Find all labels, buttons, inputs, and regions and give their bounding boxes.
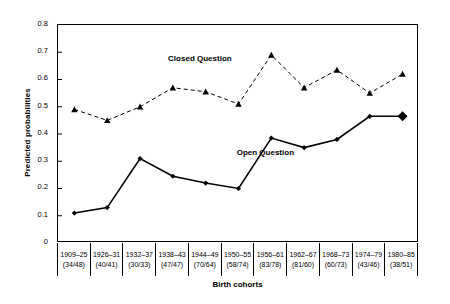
cohort-range: 1950–55 bbox=[224, 250, 251, 260]
y-tick-label: 0.2 bbox=[22, 183, 48, 191]
x-axis-category-cell: 1968–73(60/73) bbox=[320, 243, 353, 276]
cohort-range: 1932–37 bbox=[126, 250, 153, 260]
x-axis-category-cell: 1932–37(30/33) bbox=[123, 243, 156, 276]
cohort-counts: (34/48) bbox=[63, 260, 85, 270]
cohort-range: 1980–85 bbox=[388, 250, 415, 260]
y-tick-label: 0.6 bbox=[22, 74, 48, 82]
cohort-counts: (70/64) bbox=[194, 260, 216, 270]
y-tick-label: 0.4 bbox=[22, 129, 48, 137]
cohort-range: 1926–31 bbox=[93, 250, 120, 260]
x-axis-category-cell: 1944–49(70/64) bbox=[189, 243, 222, 276]
x-axis-category-cell: 1962–67(81/60) bbox=[287, 243, 320, 276]
cohort-counts: (47/47) bbox=[161, 260, 183, 270]
x-axis-category-cell: 1909–25(34/48) bbox=[58, 243, 91, 276]
open-question-markers bbox=[72, 111, 408, 215]
y-tick-label: 0.5 bbox=[22, 102, 48, 110]
cohort-range: 1962–67 bbox=[289, 250, 316, 260]
y-tick-label: 0.1 bbox=[22, 211, 48, 219]
cohort-counts: (40/41) bbox=[96, 260, 118, 270]
cohort-range: 1909–25 bbox=[60, 250, 87, 260]
y-tick-marks bbox=[58, 52, 62, 216]
cohort-range: 1938–43 bbox=[158, 250, 185, 260]
closed-question-label: Closed Question bbox=[168, 54, 232, 63]
cohort-counts: (43/46) bbox=[357, 260, 379, 270]
x-axis-category-cell: 1980–85(38/51) bbox=[385, 243, 417, 276]
x-axis-categories: 1909–25(34/48)1926–31(40/41)1932–37(30/3… bbox=[57, 243, 418, 276]
y-tick-label: 0.7 bbox=[22, 47, 48, 55]
x-axis-category-cell: 1974–79(43/46) bbox=[353, 243, 386, 276]
cohort-range: 1968–73 bbox=[322, 250, 349, 260]
cohort-counts: (83/78) bbox=[259, 260, 281, 270]
x-axis-category-cell: 1938–43(47/47) bbox=[156, 243, 189, 276]
open-question-line bbox=[74, 116, 402, 213]
y-tick-label: 0.8 bbox=[22, 20, 48, 28]
chart-figure: Predicted probabilities 0.8 0.7 0.6 0.5 … bbox=[0, 0, 450, 304]
cohort-counts: (58/74) bbox=[226, 260, 248, 270]
cohort-counts: (60/73) bbox=[325, 260, 347, 270]
x-axis-category-cell: 1950–55(58/74) bbox=[222, 243, 255, 276]
cohort-counts: (38/51) bbox=[390, 260, 412, 270]
cohort-range: 1956–61 bbox=[257, 250, 284, 260]
x-axis-category-cell: 1926–31(40/41) bbox=[91, 243, 124, 276]
y-tick-label: 0.3 bbox=[22, 156, 48, 164]
x-axis-category-cell: 1956–61(83/78) bbox=[254, 243, 287, 276]
cohort-counts: (30/33) bbox=[128, 260, 150, 270]
open-question-label: Open Question bbox=[237, 148, 294, 157]
y-tick-label: 0 bbox=[22, 238, 48, 246]
closed-question-markers bbox=[71, 52, 406, 123]
closed-question-line bbox=[74, 55, 402, 120]
x-axis-title: Birth cohorts bbox=[57, 280, 418, 289]
cohort-counts: (81/60) bbox=[292, 260, 314, 270]
plot-area: Closed Question Open Question bbox=[57, 24, 418, 242]
series-canvas bbox=[58, 25, 419, 243]
cohort-range: 1974–79 bbox=[355, 250, 382, 260]
cohort-range: 1944–49 bbox=[191, 250, 218, 260]
